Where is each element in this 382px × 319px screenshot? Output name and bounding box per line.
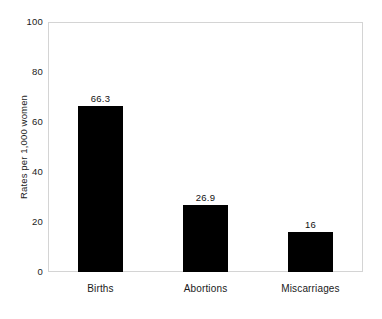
y-tick-0: 0 xyxy=(22,267,43,277)
bar-births xyxy=(78,106,123,272)
bar-abortions xyxy=(183,205,228,272)
x-category-miscarriages: Miscarriages xyxy=(265,283,356,295)
y-tick-label: 60 xyxy=(22,117,43,127)
x-category-abortions: Abortions xyxy=(160,283,251,295)
y-axis-title: Rates per 1,000 women xyxy=(16,22,32,272)
y-tick-label: 0 xyxy=(22,267,43,277)
y-tick-60: 60 xyxy=(22,117,43,127)
y-tick-100: 100 xyxy=(22,17,43,27)
bar-value-miscarriages: 16 xyxy=(278,219,343,230)
y-tick-label: 100 xyxy=(22,17,43,27)
bar-value-births: 66.3 xyxy=(68,93,133,104)
x-category-births: Births xyxy=(55,283,146,295)
y-tick-label: 40 xyxy=(22,167,43,177)
y-tick-label: 80 xyxy=(22,67,43,77)
bar-chart: Rates per 1,000 women 100 80 60 40 20 0 … xyxy=(0,0,382,319)
bar-value-abortions: 26.9 xyxy=(173,192,238,203)
y-tick-label: 20 xyxy=(22,217,43,227)
y-tick-80: 80 xyxy=(22,67,43,77)
bar-miscarriages xyxy=(288,232,333,272)
y-tick-20: 20 xyxy=(22,217,43,227)
y-tick-40: 40 xyxy=(22,167,43,177)
